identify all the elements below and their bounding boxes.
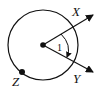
angle-label: 1	[57, 42, 62, 53]
ray-x	[43, 15, 93, 45]
ray-y	[43, 45, 93, 72]
label-x: X	[71, 4, 81, 19]
label-y: Y	[73, 71, 82, 86]
label-z: Z	[12, 74, 20, 89]
center-point	[40, 42, 46, 48]
point-z	[19, 69, 25, 75]
angle-arc	[61, 34, 69, 57]
geometry-diagram: X Y Z 1	[0, 0, 98, 94]
